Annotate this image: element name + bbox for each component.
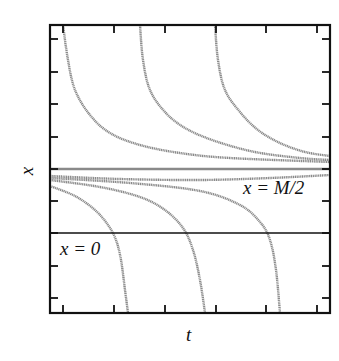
upper-curve-3 (215, 25, 330, 156)
y-axis-label: x (16, 167, 38, 175)
annotation-half-m: x = M/2 (243, 177, 304, 199)
x-axis-label: t (186, 324, 191, 346)
upper-curve-2 (140, 25, 330, 160)
upper-curve-1 (63, 25, 330, 162)
annotation-zero: x = 0 (60, 238, 100, 260)
